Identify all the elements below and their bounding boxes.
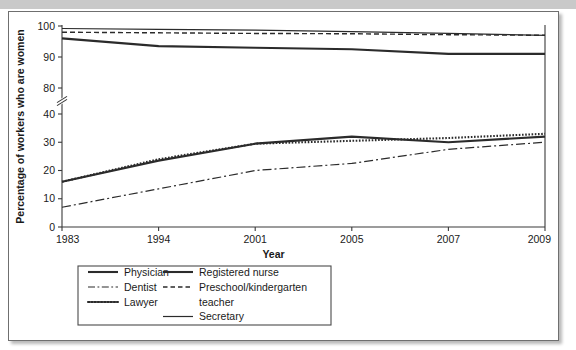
y-tick-label-0: 0 [49, 221, 55, 233]
x-tick-label-2005: 2005 [340, 233, 364, 245]
y-tick-label-80: 80 [43, 82, 55, 94]
y-tick-label-40: 40 [43, 108, 55, 120]
series-line-physician [62, 137, 545, 182]
legend-label-dentist: Dentist [124, 281, 157, 293]
legend-label-preschool-kindergarten: Preschool/kindergarten [199, 281, 307, 293]
y-tick-label-30: 30 [43, 136, 55, 148]
legend-label-teacher: teacher [199, 296, 235, 308]
legend-label-secretary: Secretary [199, 310, 245, 322]
series-line-dentist [62, 142, 545, 207]
legend-label-lawyer: Lawyer [124, 296, 158, 308]
y-tick-label-20: 20 [43, 164, 55, 176]
legend-label-physician: Physician [124, 266, 169, 278]
series-line-registered-nurse [62, 38, 545, 54]
axis-break-mask [57, 98, 67, 104]
y-axis-title: Percentage of workers who are women [14, 29, 26, 223]
x-tick-label-2007: 2007 [437, 233, 461, 245]
x-tick-label-2009: 2009 [528, 233, 552, 245]
legend-label-registered-nurse: Registered nurse [199, 266, 279, 278]
x-axis-title: Year [262, 248, 284, 260]
y-tick-label-100: 100 [37, 20, 55, 32]
y-tick-label-10: 10 [43, 192, 55, 204]
chart-svg-root: 0102030408090100198319942001200520072009… [14, 20, 551, 325]
chart-figure: 0102030408090100198319942001200520072009… [0, 0, 576, 350]
x-tick-label-1983: 1983 [56, 233, 80, 245]
y-tick-label-90: 90 [43, 51, 55, 63]
x-tick-label-2001: 2001 [244, 233, 268, 245]
x-tick-label-1994: 1994 [147, 233, 171, 245]
